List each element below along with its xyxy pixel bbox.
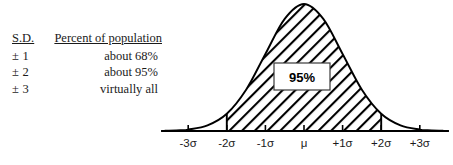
bell-curve-svg: -3σ-2σ-1σμ+1σ+2σ+3σ 95% — [155, 0, 453, 165]
legend-cell-percent: about 68% — [52, 48, 162, 65]
table-row: ± 3 virtually all — [12, 81, 162, 98]
legend-cell-percent: about 95% — [52, 64, 162, 81]
bell-curve-chart: -3σ-2σ-1σμ+1σ+2σ+3σ 95% — [155, 0, 453, 165]
legend-header-row: S.D. Percent of population — [12, 30, 162, 48]
x-axis-tick-label: +1σ — [332, 137, 352, 149]
legend-cell-sd: ± 3 — [12, 81, 52, 98]
sd-percent-legend: S.D. Percent of population ± 1 about 68%… — [12, 30, 162, 97]
x-axis-tick-label: -1σ — [257, 137, 274, 149]
x-axis-tick-label: +3σ — [410, 137, 430, 149]
legend-cell-sd: ± 1 — [12, 48, 52, 65]
legend-table-head: S.D. Percent of population — [12, 30, 162, 48]
x-axis-tick-labels: -3σ-2σ-1σμ+1σ+2σ+3σ — [180, 137, 430, 149]
table-row: ± 1 about 68% — [12, 48, 162, 65]
legend-cell-sd: ± 2 — [12, 64, 52, 81]
table-row: ± 2 about 95% — [12, 64, 162, 81]
legend-header-percent: Percent of population — [52, 30, 162, 48]
x-axis-tick-label: -3σ — [180, 137, 197, 149]
legend-cell-percent: virtually all — [52, 81, 162, 98]
callout-95-percent: 95% — [274, 63, 330, 90]
legend-table-body: ± 1 about 68% ± 2 about 95% ± 3 virtuall… — [12, 48, 162, 98]
normal-distribution-figure: S.D. Percent of population ± 1 about 68%… — [0, 0, 453, 165]
x-axis-tick-label: -2σ — [218, 137, 235, 149]
x-axis-tick-label: μ — [301, 137, 308, 149]
callout-label: 95% — [289, 70, 315, 85]
legend-header-sd: S.D. — [12, 30, 52, 48]
legend-table: S.D. Percent of population ± 1 about 68%… — [12, 30, 162, 97]
x-axis-tick-label: +2σ — [371, 137, 391, 149]
